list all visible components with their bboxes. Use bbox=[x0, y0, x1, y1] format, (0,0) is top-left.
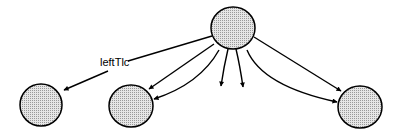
edge-root-to-midleft-2 bbox=[154, 50, 219, 99]
node-right[interactable] bbox=[338, 86, 382, 128]
node-left[interactable] bbox=[20, 84, 62, 126]
node-mid-left[interactable] bbox=[109, 85, 153, 127]
edge-root-to-right-2 bbox=[247, 50, 337, 102]
edge-root-to-right-1 bbox=[254, 37, 341, 91]
edge-root-open-1 bbox=[221, 49, 228, 86]
edge-root-open-2 bbox=[236, 49, 243, 87]
edge-root-to-midleft-1 bbox=[149, 44, 214, 89]
tree-diagram: leftTlc bbox=[0, 0, 402, 140]
edge-root-to-left bbox=[128, 36, 212, 61]
edge-root-to-left-lower bbox=[64, 71, 108, 90]
edge-label-lefttlc: leftTlc bbox=[100, 56, 130, 68]
node-root[interactable] bbox=[211, 7, 255, 49]
